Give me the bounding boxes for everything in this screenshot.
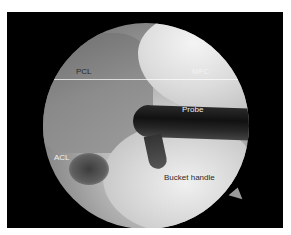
- label-acl: ACL: [54, 153, 70, 162]
- label-mfc: MFC: [192, 67, 209, 76]
- image-frame: PCL MFC Probe ACL Bucket handle: [7, 12, 283, 228]
- label-pcl: PCL: [76, 67, 92, 76]
- arthroscope-circular-view: [43, 23, 249, 228]
- label-probe: Probe: [182, 105, 203, 114]
- scan-line: [43, 79, 249, 80]
- acl-region: [69, 153, 109, 185]
- label-bucket-handle: Bucket handle: [164, 173, 215, 182]
